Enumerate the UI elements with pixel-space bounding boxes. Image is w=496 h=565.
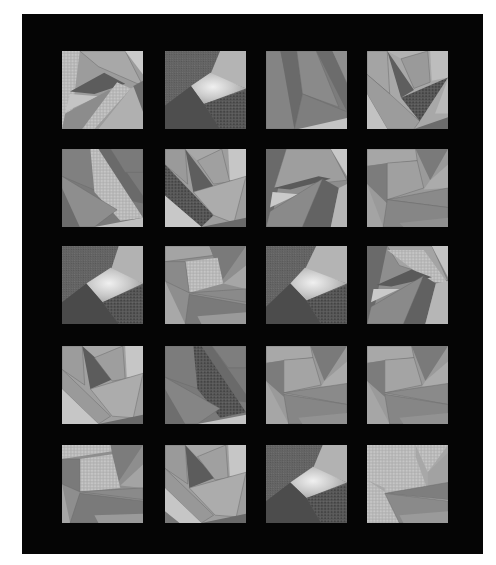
quilt-block-r1c4	[367, 51, 448, 129]
quilt-block-r2c1	[62, 149, 143, 227]
quilt-block-r3c4	[367, 246, 448, 324]
quilt-block-r5c4	[367, 445, 448, 523]
quilt-block-r4c4	[367, 346, 448, 424]
quilt-block-r5c1	[62, 445, 143, 523]
quilt	[22, 14, 483, 554]
quilt-block-r1c2	[165, 51, 246, 129]
quilt-block-r5c2	[165, 445, 246, 523]
quilt-block-r3c2	[165, 246, 246, 324]
quilt-block-r4c2	[165, 346, 246, 424]
quilt-block-r1c1	[62, 51, 143, 129]
quilt-block-r2c3	[266, 149, 347, 227]
quilt-block-r3c3	[266, 246, 347, 324]
quilt-block-r3c1	[62, 246, 143, 324]
quilt-block-r1c3	[266, 51, 347, 129]
quilt-block-r4c1	[62, 346, 143, 424]
quilt-block-r4c3	[266, 346, 347, 424]
quilt-block-r2c2	[165, 149, 246, 227]
quilt-block-r5c3	[266, 445, 347, 523]
quilt-block-r2c4	[367, 149, 448, 227]
